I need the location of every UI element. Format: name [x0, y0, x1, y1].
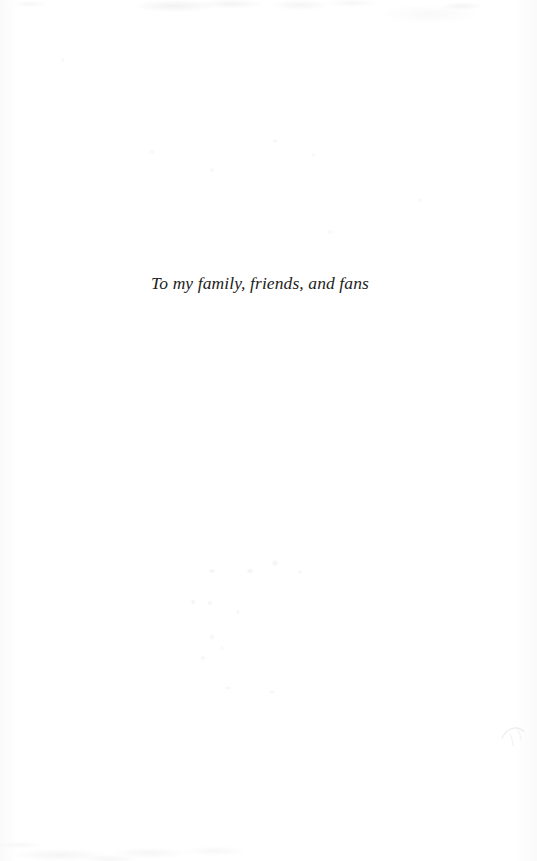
- dedication-page: To my family, friends, and fans: [0, 0, 537, 861]
- dedication-text: To my family, friends, and fans: [151, 272, 369, 294]
- dedication-block: To my family, friends, and fans: [0, 272, 520, 294]
- page-showthrough-specks: [0, 0, 537, 861]
- scan-smudge-icon: [496, 718, 530, 752]
